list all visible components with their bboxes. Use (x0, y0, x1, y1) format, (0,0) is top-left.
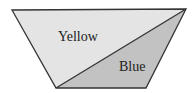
blue-label: Blue (119, 59, 145, 74)
yellow-label: Yellow (58, 29, 99, 44)
trapezoid-diagram: Yellow Blue (0, 0, 193, 93)
